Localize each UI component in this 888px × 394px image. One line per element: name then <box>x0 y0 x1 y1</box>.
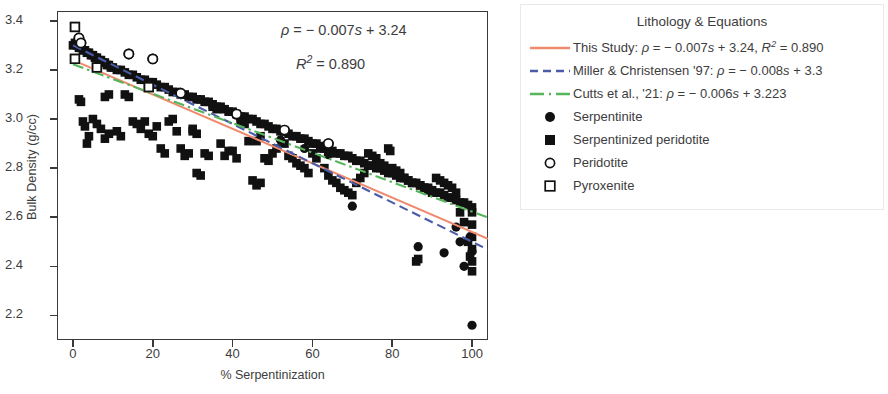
data-point <box>304 169 313 178</box>
data-point <box>204 152 213 161</box>
regression-equation-annotation: ρ = − 0.007s + 3.24 <box>281 22 407 38</box>
data-point <box>184 149 193 158</box>
y-tick-label: 3.0 <box>0 110 23 125</box>
data-point <box>124 49 133 58</box>
r-symbol: R <box>296 56 306 72</box>
data-point <box>212 105 221 114</box>
data-point <box>459 262 468 271</box>
data-point <box>93 120 102 129</box>
data-point <box>468 257 477 266</box>
data-point <box>83 139 92 148</box>
data-point <box>105 90 114 99</box>
legend-item-label: Serpentinized peridotite <box>573 132 710 147</box>
data-point <box>85 132 94 141</box>
data-point <box>144 83 153 92</box>
y-tick-mark <box>50 20 57 22</box>
figure-root: 3.43.23.02.82.62.42.2 Bulk Density (g/cc… <box>0 0 888 394</box>
data-point <box>148 132 157 141</box>
data-point <box>467 321 476 330</box>
data-point <box>414 255 423 264</box>
data-point <box>196 171 205 180</box>
legend-item[interactable]: This Study: ρ = − 0.007s + 3.24, R2 = 0.… <box>521 36 883 59</box>
y-tick-label: 2.6 <box>0 208 23 223</box>
data-point <box>81 122 90 131</box>
legend-item[interactable]: Serpentinite <box>521 105 883 128</box>
data-point <box>460 218 469 227</box>
data-point <box>232 110 241 119</box>
data-points <box>69 23 477 330</box>
data-point <box>125 93 134 102</box>
legend-item[interactable]: Miller & Christensen '97: ρ = − 0.008s +… <box>521 59 883 82</box>
data-point <box>348 191 357 200</box>
x-tick-label: 20 <box>123 346 183 361</box>
data-point <box>256 179 265 188</box>
scatter-plot-panel: 3.43.23.02.82.62.42.2 Bulk Density (g/cc… <box>0 0 515 394</box>
serpentinized-peridotite-marker-swatch <box>527 132 573 148</box>
x-tick-mark <box>72 340 74 347</box>
data-point <box>105 129 114 138</box>
x-tick-label: 80 <box>362 346 422 361</box>
data-point <box>176 144 185 153</box>
y-tick-mark <box>50 118 57 120</box>
miller-christensen-line-swatch <box>527 66 573 76</box>
data-point <box>192 129 201 138</box>
legend-item-label: Miller & Christensen '97: ρ = − 0.008s +… <box>573 63 823 78</box>
legend-rows: This Study: ρ = − 0.007s + 3.24, R2 = 0.… <box>521 36 883 197</box>
data-point <box>113 127 122 136</box>
x-tick-mark <box>471 340 473 347</box>
data-point <box>452 188 461 197</box>
data-point <box>71 55 80 64</box>
y-tick-label: 2.2 <box>0 306 23 321</box>
legend-item[interactable]: Peridotite <box>521 151 883 174</box>
data-point <box>380 161 389 170</box>
equation-tail: + 3.24 <box>362 22 407 38</box>
data-point <box>280 125 289 134</box>
x-tick-mark <box>391 340 393 347</box>
legend-item-label: Pyroxenite <box>573 178 634 193</box>
r-squared-value: = 0.890 <box>312 56 365 72</box>
data-point <box>468 267 477 276</box>
x-tick-label: 40 <box>203 346 263 361</box>
plot-svg <box>57 11 488 340</box>
data-point <box>468 220 477 229</box>
pyroxenite-marker-swatch <box>527 178 573 194</box>
data-point <box>76 38 85 47</box>
data-point <box>93 63 102 72</box>
plot-canvas <box>57 11 488 340</box>
data-point <box>324 139 333 148</box>
y-tick-mark <box>50 216 57 218</box>
x-axis-label: % Serpentinization <box>57 368 488 382</box>
data-point <box>172 127 181 136</box>
legend-item-label: Peridotite <box>573 155 628 170</box>
legend-title: Lithology & Equations <box>521 14 883 29</box>
x-tick-label: 60 <box>282 346 342 361</box>
legend-item-label: Serpentinite <box>573 109 642 124</box>
legend-item[interactable]: Pyroxenite <box>521 174 883 197</box>
x-tick-mark <box>152 340 154 347</box>
y-tick-mark <box>50 167 57 169</box>
data-point <box>264 156 273 165</box>
regression-line <box>73 45 488 249</box>
equation-variable: s <box>355 22 362 38</box>
legend-item[interactable]: Cutts et al., '21: ρ = − 0.006s + 3.223 <box>521 82 883 105</box>
legend-item-label: Cutts et al., '21: ρ = − 0.006s + 3.223 <box>573 86 786 101</box>
legend-item[interactable]: Serpentinized peridotite <box>521 128 883 151</box>
y-tick-mark <box>50 266 57 268</box>
y-tick-label: 2.8 <box>0 159 23 174</box>
data-point <box>228 147 237 156</box>
data-point <box>71 23 80 32</box>
equation-rhs: = − 0.007 <box>289 22 354 38</box>
x-tick-label: 0 <box>43 346 103 361</box>
data-point <box>468 245 477 254</box>
regression-line <box>73 64 488 217</box>
x-tick-mark <box>232 340 234 347</box>
data-point <box>140 117 149 126</box>
data-point <box>386 147 395 156</box>
serpentinite-marker-swatch <box>527 109 573 125</box>
peridotite-marker-swatch <box>527 155 573 171</box>
data-point <box>77 98 86 107</box>
cutts-line-swatch <box>527 89 573 99</box>
data-point <box>152 122 161 131</box>
this-study-line-swatch <box>527 43 573 53</box>
x-tick-mark <box>312 340 314 347</box>
